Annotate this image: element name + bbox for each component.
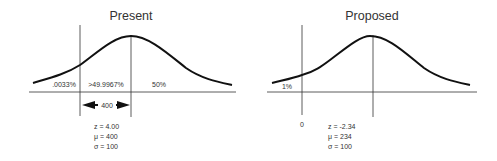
proposed-z-value: z = -2.34 bbox=[328, 123, 356, 130]
present-chart: Present .0033% >49.9967% 50% 400 z = 4.0… bbox=[29, 9, 236, 150]
present-right-label: 50% bbox=[152, 81, 166, 88]
proposed-sigma-value: σ = 100 bbox=[328, 143, 352, 150]
diagram-canvas: Present .0033% >49.9967% 50% 400 z = 4.0… bbox=[0, 0, 497, 161]
present-normal-curve bbox=[33, 36, 232, 85]
proposed-mu-value: μ = 234 bbox=[328, 133, 352, 141]
present-mu-value: μ = 400 bbox=[94, 133, 118, 141]
proposed-tail-label: 1% bbox=[282, 83, 292, 90]
proposed-title: Proposed bbox=[345, 9, 399, 23]
proposed-zero-label: 0 bbox=[300, 121, 304, 128]
present-z-value: z = 4.00 bbox=[94, 123, 119, 130]
present-sigma-value: σ = 100 bbox=[94, 143, 118, 150]
present-middle-label: >49.9967% bbox=[88, 81, 124, 88]
present-title: Present bbox=[109, 9, 153, 23]
present-interval-label: 400 bbox=[101, 102, 113, 109]
present-left-tail-label: .0033% bbox=[52, 81, 76, 88]
proposed-chart: Proposed 1% 0 z = -2.34 μ = 234 σ = 100 bbox=[267, 9, 477, 150]
